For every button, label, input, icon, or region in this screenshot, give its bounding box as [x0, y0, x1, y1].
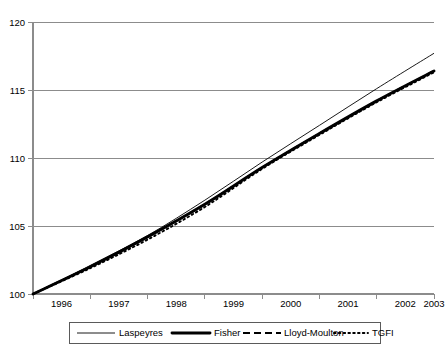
y-tick-marks	[28, 22, 33, 294]
y-tick-labels: 120 115 110 105 100	[9, 17, 25, 300]
y-tick-label-120: 120	[9, 17, 25, 28]
x-tick-label-1996: 1996	[51, 298, 72, 309]
series-lines	[33, 53, 434, 294]
y-tick-label-105: 105	[9, 221, 25, 232]
y-tick-label-115: 115	[10, 85, 25, 96]
y-tick-label-100: 100	[9, 289, 25, 300]
legend-label-tgfi: TGFI	[372, 327, 394, 338]
x-tick-label-2001: 2001	[337, 298, 358, 309]
chart-legend: Laspeyres Fisher Lloyd-Moulton TGFI	[70, 323, 394, 344]
x-tick-label-1999: 1999	[223, 298, 244, 309]
x-tick-label-1997: 1997	[108, 298, 129, 309]
legend-label-laspeyres: Laspeyres	[119, 327, 163, 338]
y-tick-label-110: 110	[10, 153, 25, 164]
legend-label-fisher: Fisher	[214, 327, 240, 338]
index-comparison-line-chart: 120 115 110 105 100 1996 1997 1998 1999 …	[0, 0, 448, 357]
x-tick-labels: 1996 1997 1998 1999 2000 2001 2002 2003	[51, 298, 445, 309]
x-tick-label-2003: 2003	[423, 298, 444, 309]
y-gridlines	[33, 22, 434, 226]
series-line-tgfi	[33, 72, 434, 294]
x-tick-label-2002: 2002	[395, 298, 416, 309]
x-tick-label-2000: 2000	[280, 298, 301, 309]
x-tick-label-1998: 1998	[166, 298, 187, 309]
chart-svg: 120 115 110 105 100 1996 1997 1998 1999 …	[0, 0, 448, 357]
series-line-laspeyres	[33, 53, 434, 294]
